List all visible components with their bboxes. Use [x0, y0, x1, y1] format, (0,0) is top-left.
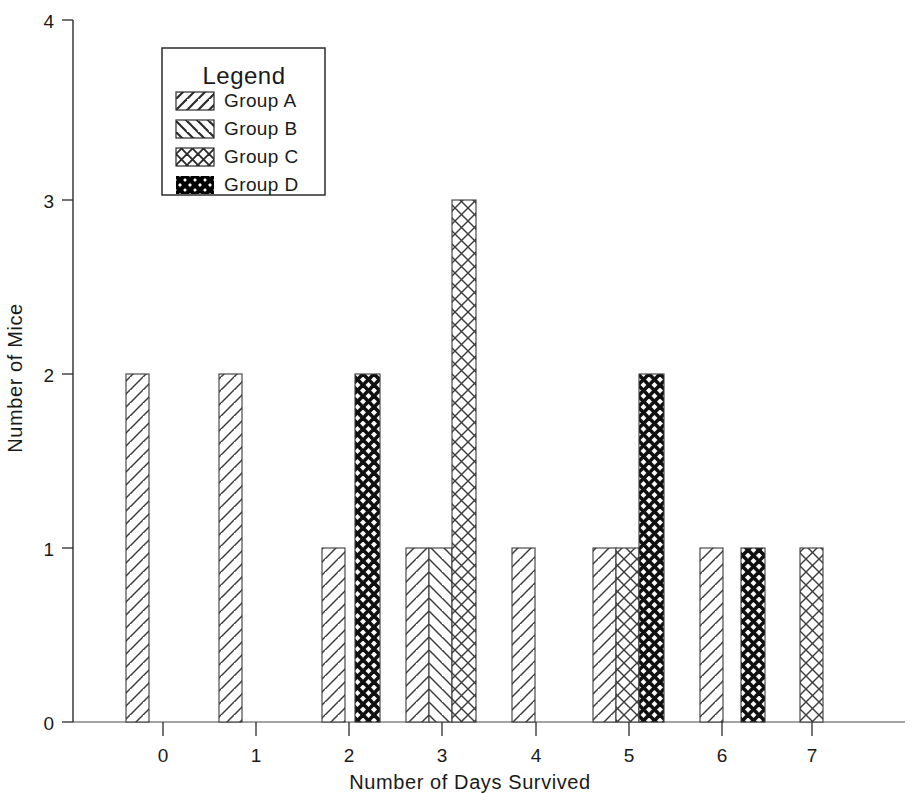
bar-group-a-day-1 — [219, 374, 242, 722]
legend-title: Legend — [202, 62, 285, 89]
x-tick-label-5: 5 — [624, 745, 635, 766]
y-tick-label-2: 2 — [43, 365, 54, 386]
bar-group-c-day-5 — [616, 548, 639, 722]
bar-group-a-day-4 — [512, 548, 535, 722]
legend-swatch-group-d — [176, 176, 214, 194]
legend-label-group-b: Group B — [224, 118, 298, 139]
x-tick-label-0: 0 — [158, 745, 169, 766]
x-tick-label-6: 6 — [717, 745, 728, 766]
bar-group-d-day-6 — [741, 548, 765, 722]
bar-group-c-day-3 — [452, 200, 476, 722]
bar-group-a-day-3 — [406, 548, 429, 722]
y-axis-title: Number of Mice — [4, 303, 26, 453]
x-axis-title: Number of Days Survived — [349, 771, 591, 793]
y-tick-label-0: 0 — [43, 713, 54, 734]
x-tick-label-3: 3 — [437, 745, 448, 766]
x-tick-label-2: 2 — [344, 745, 355, 766]
x-tick-label-7: 7 — [807, 745, 818, 766]
bar-group-b-day-3 — [429, 548, 452, 722]
bar-group-a-day-5 — [593, 548, 616, 722]
chart-canvas: 4 3 2 1 0 0 1 2 3 4 5 6 7 Numbe — [0, 0, 920, 794]
legend-swatch-group-a — [176, 92, 214, 110]
y-tick-label-3: 3 — [43, 191, 54, 212]
y-axis-ticks — [62, 20, 73, 722]
chart-figure: 4 3 2 1 0 0 1 2 3 4 5 6 7 Numbe — [0, 0, 920, 794]
legend: Legend Group A Group B Group C Group D — [162, 48, 325, 195]
x-tick-label-1: 1 — [251, 745, 262, 766]
x-tick-label-4: 4 — [531, 745, 542, 766]
bar-group-a-day-6 — [700, 548, 723, 722]
y-axis-tick-labels: 4 3 2 1 0 — [43, 11, 54, 734]
legend-label-group-a: Group A — [224, 90, 297, 111]
legend-label-group-d: Group D — [224, 174, 299, 195]
bar-group-a-day-0 — [126, 374, 149, 722]
y-tick-label-4: 4 — [43, 11, 54, 32]
x-axis-tick-labels: 0 1 2 3 4 5 6 7 — [158, 745, 818, 766]
bar-group-d-day-2 — [355, 374, 380, 722]
legend-swatch-group-c — [176, 148, 214, 166]
bar-group-d-day-5 — [639, 374, 664, 722]
legend-swatch-group-b — [176, 120, 214, 138]
legend-label-group-c: Group C — [224, 146, 299, 167]
y-tick-label-1: 1 — [43, 539, 54, 560]
bars-layer — [126, 200, 823, 722]
x-axis-ticks — [163, 722, 812, 736]
bar-group-c-day-7 — [800, 548, 823, 722]
bar-group-a-day-2 — [322, 548, 345, 722]
